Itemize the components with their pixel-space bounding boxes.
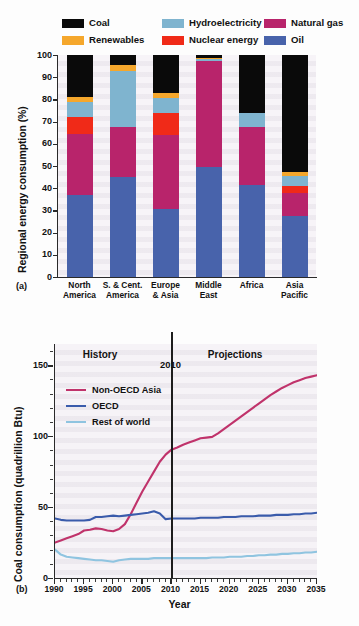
- x-category-label-line: Pacific: [269, 291, 321, 301]
- y-tick-label-a: 30: [26, 206, 52, 215]
- y-minor-tick-b: [50, 422, 53, 423]
- x-category-label-line: East: [183, 291, 235, 301]
- bar-segment-coal: [110, 55, 136, 65]
- bar-segment-oil: [153, 209, 179, 277]
- bar-segment-hydroelectricity: [239, 113, 265, 127]
- legend-label: Rest of world: [92, 416, 150, 428]
- legend-panel-a: CoalHydroelectricityNatural gasRenewable…: [62, 16, 342, 50]
- y-tick-mark-b: [48, 507, 53, 508]
- y-minor-tick-b: [50, 394, 53, 395]
- y-tick-label-a: 70: [26, 117, 52, 126]
- y-tick-label-a: 50: [26, 162, 52, 171]
- y-tick-label-a: 80: [26, 95, 52, 104]
- bar-middle-east: [196, 55, 222, 277]
- bar-segment-oil: [67, 195, 93, 277]
- plot-area-panel-a: [58, 55, 316, 277]
- x-minor-tick-b: [281, 579, 282, 582]
- bar-segment-nuclear-energy: [67, 117, 93, 134]
- bar-segment-renewables: [196, 58, 222, 59]
- x-tick-mark-b: [229, 579, 230, 584]
- x-minor-tick-b: [264, 579, 265, 582]
- y-tick-mark-a: [53, 144, 57, 145]
- x-minor-tick-b: [136, 579, 137, 582]
- x-minor-tick-b: [252, 579, 253, 582]
- bar-segment-natural-gas: [153, 135, 179, 209]
- plot-area-panel-b: [54, 344, 317, 579]
- bar-segment-natural-gas: [239, 127, 265, 185]
- legend-line-icon: [66, 405, 86, 407]
- y-tick-mark-b: [48, 436, 53, 437]
- y-tick-label-a: 10: [26, 250, 52, 259]
- panel-a-stacked-bar-chart: CoalHydroelectricityNatural gasRenewable…: [0, 0, 359, 316]
- legend-label: Hydroelectricity: [189, 16, 262, 29]
- y-tick-label-b: 100: [20, 432, 48, 441]
- y-minor-tick-b: [50, 535, 53, 536]
- x-minor-tick-b: [275, 579, 276, 582]
- y-tick-mark-a: [53, 55, 57, 56]
- bar-segment-renewables: [67, 97, 93, 102]
- x-minor-tick-b: [304, 579, 305, 582]
- x-minor-tick-b: [77, 579, 78, 582]
- x-minor-tick-b: [106, 579, 107, 582]
- y-tick-mark-a: [53, 77, 57, 78]
- x-minor-tick-b: [60, 579, 61, 582]
- x-tick-mark-b: [287, 579, 288, 584]
- bar-segment-natural-gas: [196, 61, 222, 168]
- legend-label: Natural gas: [291, 16, 343, 29]
- panel-b-tag: (b): [16, 584, 28, 594]
- bar-segment-nuclear-energy: [282, 186, 308, 193]
- legend-swatch-icon: [162, 36, 184, 45]
- x-axis-line-a: [57, 277, 317, 278]
- bar-segment-renewables: [282, 172, 308, 176]
- y-tick-label-b: 0: [20, 574, 48, 583]
- y-tick-label-a: 60: [26, 139, 52, 148]
- y-tick-mark-a: [53, 122, 57, 123]
- y-minor-tick-b: [50, 450, 53, 451]
- legend-line-icon: [66, 389, 86, 391]
- panel-b-line-chart: HistoryProjections2010050100150199019952…: [0, 316, 359, 626]
- x-minor-tick-b: [293, 579, 294, 582]
- x-minor-tick-b: [234, 579, 235, 582]
- x-tick-mark-b: [112, 579, 113, 584]
- y-tick-mark-a: [53, 233, 57, 234]
- annotation-projections: Projections: [208, 349, 262, 360]
- y-tick-label-a: 20: [26, 228, 52, 237]
- bar-north-america: [67, 55, 93, 277]
- bar-asia-pacific: [282, 55, 308, 277]
- y-tick-label-a: 0: [26, 273, 52, 282]
- bar-segment-hydroelectricity: [67, 102, 93, 116]
- bar-africa: [239, 55, 265, 277]
- x-tick-mark-b: [170, 579, 171, 584]
- x-tick-mark-b: [316, 579, 317, 584]
- bar-segment-oil: [239, 185, 265, 277]
- legend-swatch-icon: [62, 36, 84, 45]
- y-tick-mark-b: [48, 578, 53, 579]
- bar-segment-coal: [196, 55, 222, 58]
- bar-segment-oil: [282, 216, 308, 277]
- x-minor-tick-b: [299, 579, 300, 582]
- bar-segment-oil: [110, 177, 136, 277]
- bar-segment-renewables: [153, 93, 179, 99]
- x-axis-label-b: Year: [0, 598, 359, 610]
- y-tick-mark-b: [48, 365, 53, 366]
- y-axis-label-b: Coal consumption (quadrillion Btu): [12, 406, 24, 582]
- x-minor-tick-b: [124, 579, 125, 582]
- legend-label: OECD: [92, 400, 119, 412]
- x-minor-tick-b: [147, 579, 148, 582]
- x-minor-tick-b: [89, 579, 90, 582]
- bar-segment-coal: [153, 55, 179, 93]
- y-tick-label-b: 50: [20, 503, 48, 512]
- x-minor-tick-b: [310, 579, 311, 582]
- x-minor-tick-b: [269, 579, 270, 582]
- x-minor-tick-b: [211, 579, 212, 582]
- y-minor-tick-b: [50, 351, 53, 352]
- y-tick-mark-a: [53, 188, 57, 189]
- y-minor-tick-b: [50, 379, 53, 380]
- bar-segment-nuclear-energy: [153, 113, 179, 135]
- y-tick-mark-a: [53, 210, 57, 211]
- x-minor-tick-b: [165, 579, 166, 582]
- legend-label: Coal: [89, 16, 110, 29]
- x-tick-mark-b: [83, 579, 84, 584]
- y-axis-label-a: Regional energy consumption (%): [16, 106, 28, 273]
- annotation-2010: 2010: [160, 359, 181, 370]
